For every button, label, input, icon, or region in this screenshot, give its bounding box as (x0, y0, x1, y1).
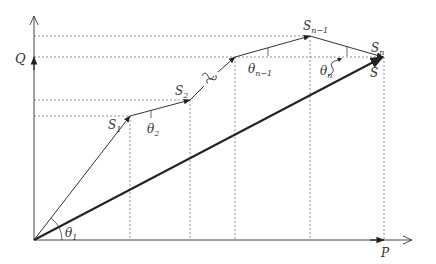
p-axis-label: P (380, 246, 390, 260)
label-thetan: θn (320, 64, 332, 80)
label-thetan-1: θn−1 (248, 62, 272, 78)
resultant-vector (34, 57, 383, 240)
label-theta2: θ2 (147, 122, 159, 138)
label-sn-1: Sn−1 (303, 19, 328, 35)
label-theta1: θ1 (65, 226, 77, 242)
label-sn: Sn (371, 41, 384, 57)
diagram-canvas: Q P S1 S2 Sn−1 Sn S θ1 θ2 θn−1 θn (0, 0, 436, 264)
break-symbol-icon (202, 73, 218, 86)
label-s2: S2 (175, 84, 188, 100)
label-resultant-s: S (370, 66, 378, 80)
q-axis-label: Q (15, 51, 26, 66)
segment-path (34, 36, 383, 240)
label-s1: S1 (108, 118, 121, 134)
vertical-guides (130, 36, 384, 240)
